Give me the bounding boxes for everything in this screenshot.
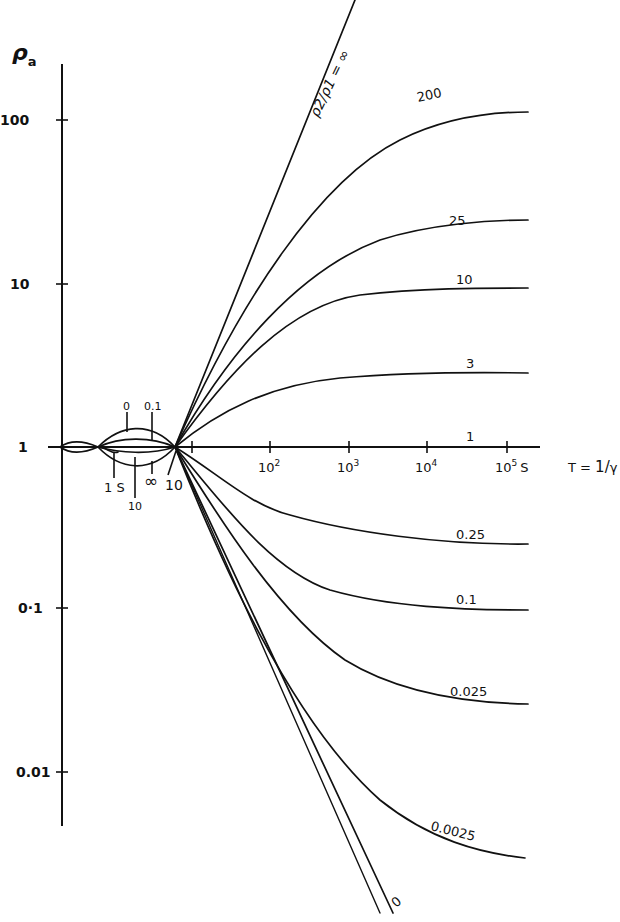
lower-curves [175,447,528,913]
y-tick-100: 100 [0,112,29,128]
x-tick-1e2: 102 [258,458,280,475]
inner-label-0.1: 0.1 [144,400,162,413]
curve-0 [175,447,393,913]
x-axis-title: T = 1/γ [567,458,618,476]
curve-200 [175,112,528,447]
ratio-label: ρ2/ρ1 = ∞ [306,47,352,119]
inner-label-0: 0 [123,400,130,413]
inner-label-10: 10 [128,500,142,513]
y-axis-title: ρa [12,40,37,69]
label-25: 25 [449,213,466,228]
x-tick-1e4: 104 [415,458,438,475]
curve-25 [175,220,528,447]
label-0.1: 0.1 [456,592,477,607]
curve-3 [175,373,528,447]
inner-label-1s: 1 S [104,480,125,495]
label-10: 10 [456,272,473,287]
curve-10 [175,288,528,447]
y-tick-0.01: 0.01 [16,764,51,780]
curve-0.025 [175,447,528,704]
label-1: 1 [466,429,474,444]
label-0.0025: 0.0025 [429,818,477,844]
y-tick-1: 1 [18,439,28,455]
x-tick-1e5: 105S [495,458,529,475]
label-0.025: 0.025 [450,684,487,699]
inner-label-10b: 10 [165,477,183,493]
upper-curves [175,0,528,447]
label-0.25: 0.25 [456,527,485,542]
x-tick-1e3: 103 [337,458,359,475]
curve-0-b [175,447,380,913]
inner-label-inf: ∞ [144,471,158,491]
y-tick-0.1: 0·1 [18,600,43,616]
label-3: 3 [466,356,474,371]
label-200: 200 [416,85,443,105]
y-tick-10: 10 [10,276,30,292]
apparent-resistivity-chart: ρa 100 10 1 0·1 0.01 102 103 104 105S T … [0,0,620,922]
